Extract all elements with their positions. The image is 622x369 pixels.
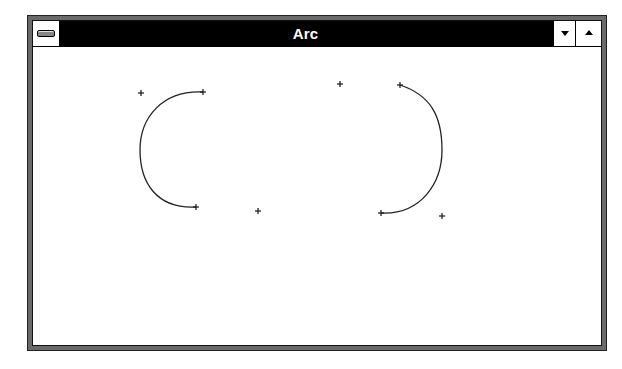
arc-left	[140, 92, 203, 207]
arc-right-corner-a-marker	[337, 81, 343, 87]
arc-left-corner-a-marker	[138, 90, 144, 96]
arc-right-corner-b-marker	[439, 213, 445, 219]
arc-right	[381, 85, 442, 213]
drawing-canvas	[0, 0, 622, 369]
arc-left-start-marker	[200, 89, 206, 95]
arc-left-corner-b-marker	[255, 208, 261, 214]
arc-right-start-marker	[397, 82, 403, 88]
arc-right-end-marker	[378, 210, 384, 216]
arc-left-end-marker	[193, 204, 199, 210]
